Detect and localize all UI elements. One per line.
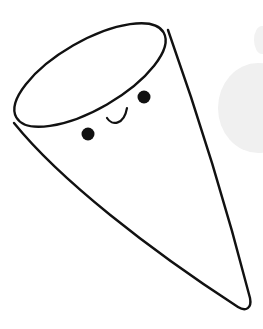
- cone-body: [0, 3, 250, 309]
- cone-illustration: [0, 0, 263, 329]
- right-eye: [138, 91, 151, 104]
- left-eye: [82, 128, 95, 141]
- background-blob: [218, 26, 263, 153]
- illustration-canvas: [0, 0, 263, 329]
